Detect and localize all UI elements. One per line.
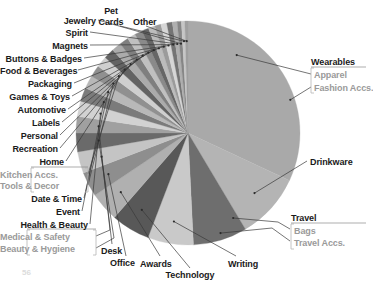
subgroup-label-kitchen-accs: Kitchen Accs. bbox=[0, 170, 86, 180]
slice-label-other: Other bbox=[133, 17, 171, 27]
slice-label-magnets: Magnets bbox=[0, 41, 88, 51]
leader-dot bbox=[141, 209, 143, 211]
slice-label-event: Event bbox=[0, 207, 80, 217]
slice-label-technology: Technology bbox=[159, 270, 221, 280]
subgroup-label-bags: Bags bbox=[294, 226, 340, 236]
leader-dot bbox=[107, 173, 109, 175]
leader-dot bbox=[103, 101, 105, 103]
leader-dot bbox=[136, 58, 138, 60]
slice-label-jewelry: Jewelry bbox=[0, 16, 96, 26]
slice-label-desk: Desk bbox=[101, 246, 135, 256]
leader-dot bbox=[118, 75, 120, 77]
slice-label-buttons-badges: Buttons & Badges bbox=[0, 54, 82, 64]
leader-dot bbox=[99, 113, 101, 115]
subgroup-label-travel-accs: Travel Accs. bbox=[294, 238, 354, 248]
leader-dot bbox=[236, 54, 238, 56]
subgroup-label-tools-decor: Tools & Decor bbox=[0, 181, 86, 191]
leader-dot bbox=[183, 40, 185, 42]
leader-dot bbox=[112, 82, 114, 84]
leader-dot bbox=[98, 125, 100, 127]
subgroup-label-apparel: Apparel bbox=[314, 70, 366, 80]
leader-dot bbox=[163, 46, 165, 48]
slice-label-games-toys: Games & Toys bbox=[0, 92, 70, 102]
leader-dot bbox=[176, 43, 178, 45]
slice-label-food-beverages: Food & Beverages bbox=[0, 66, 76, 76]
slice-label-spirit: Spirit bbox=[0, 28, 88, 38]
slice-label-labels: Labels bbox=[0, 118, 60, 128]
slice-label-drinkware: Drinkware bbox=[310, 157, 366, 167]
leader-dot bbox=[180, 43, 182, 45]
leader-dot bbox=[120, 191, 122, 193]
leader-dot bbox=[289, 99, 291, 101]
leader-dot bbox=[142, 55, 144, 57]
slice-label-cards: Cards bbox=[92, 17, 130, 27]
subgroup-label-medical-safety: Medical & Safety bbox=[0, 232, 94, 242]
slice-label-personal: Personal bbox=[0, 131, 58, 141]
leader-dot bbox=[219, 232, 221, 234]
slice-label-home: Home bbox=[0, 157, 64, 167]
subgroup-label-fashion-accs: Fashion Accs. bbox=[314, 83, 368, 93]
leader-dot bbox=[147, 52, 149, 54]
leader-dot bbox=[101, 156, 103, 158]
slice-label-automotive: Automotive bbox=[0, 105, 66, 115]
slice-label-packaging: Packaging bbox=[0, 79, 72, 89]
slice-label-writing: Writing bbox=[228, 259, 280, 269]
leader-dot bbox=[158, 47, 160, 49]
slice-label-awards: Awards bbox=[140, 259, 184, 269]
leader-dot bbox=[172, 44, 174, 46]
leader-line bbox=[290, 87, 311, 100]
slice-label-pet: Pet bbox=[96, 6, 126, 16]
leader-dot bbox=[130, 63, 132, 65]
subgroup-label-beauty-hygiene: Beauty & Hygiene bbox=[0, 244, 94, 254]
leader-dot bbox=[186, 40, 188, 42]
leader-dot bbox=[153, 49, 155, 51]
slice-label-recreation: Recreation bbox=[0, 144, 58, 154]
page-corner-number: 56 bbox=[22, 268, 31, 277]
leader-dot bbox=[124, 69, 126, 71]
leader-dot bbox=[253, 192, 255, 194]
leader-dot bbox=[107, 91, 109, 93]
leader-dot bbox=[173, 220, 175, 222]
slice-label-travel: Travel bbox=[291, 213, 339, 223]
slice-label-date-time: Date & Time bbox=[0, 194, 82, 204]
leader-dot bbox=[98, 140, 100, 142]
leader-dot bbox=[232, 217, 234, 219]
slice-label-health-beauty: Health & Beauty bbox=[0, 220, 88, 230]
leader-dot bbox=[168, 44, 170, 46]
slice-label-wearables: Wearables bbox=[311, 57, 367, 67]
